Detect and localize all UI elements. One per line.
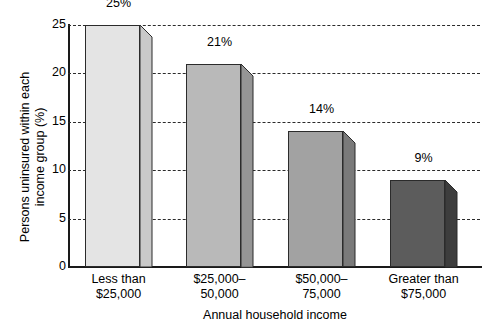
bar-side-face	[241, 64, 253, 267]
bar	[288, 131, 343, 267]
x-category-label-line1: Less than	[64, 272, 174, 287]
x-category-label: Less than$25,000	[64, 272, 174, 302]
x-category-label-line1: $50,000–	[267, 272, 377, 287]
bar-series	[68, 25, 480, 267]
y-tick-label: 0	[40, 259, 66, 273]
bar	[390, 180, 445, 267]
bar-front-face	[288, 131, 343, 267]
bar-value-label: 9%	[389, 151, 459, 165]
y-tick-label: 5	[40, 211, 66, 225]
bar	[85, 25, 140, 267]
x-category-label-line2: 75,000	[267, 287, 377, 302]
bar	[186, 64, 241, 267]
y-axis-ticks: 0510152025	[38, 25, 66, 267]
bar-side-face	[445, 180, 457, 267]
y-tick-label: 15	[40, 114, 66, 128]
x-category-label-line1: $25,000–	[165, 272, 275, 287]
x-category-label-line2: $75,000	[369, 287, 479, 302]
y-tick-label: 20	[40, 65, 66, 79]
bar-value-label: 14%	[287, 102, 357, 116]
x-category-label: $25,000–50,000	[165, 272, 275, 302]
y-axis-title-line1: Persons uninsured within each	[18, 32, 33, 282]
x-category-label-line2: 50,000	[165, 287, 275, 302]
bar-side-face	[140, 25, 152, 267]
bar-front-face	[85, 25, 140, 267]
bar-value-label: 25%	[84, 0, 154, 10]
x-category-label-line1: Greater than	[369, 272, 479, 287]
bar-value-label: 21%	[185, 35, 255, 49]
y-tick-label: 25	[40, 17, 66, 31]
x-category-label: Greater than$75,000	[369, 272, 479, 302]
bar-chart: Persons uninsured within each income gro…	[0, 0, 491, 330]
x-category-label-line2: $25,000	[64, 287, 174, 302]
y-tick-label: 10	[40, 162, 66, 176]
bar-front-face	[186, 64, 241, 267]
plot-area	[68, 25, 480, 267]
x-axis-title: Annual household income	[68, 308, 482, 322]
x-axis-category-labels: Less than$25,000$25,000–50,000$50,000–75…	[68, 272, 482, 308]
bar-side-face	[343, 131, 355, 267]
x-category-label: $50,000–75,000	[267, 272, 377, 302]
bar-front-face	[390, 180, 445, 267]
